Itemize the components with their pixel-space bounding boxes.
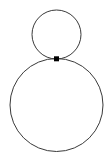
tangent-circles-diagram bbox=[0, 0, 109, 160]
tangent-point bbox=[54, 56, 59, 61]
diagram-background bbox=[0, 0, 109, 160]
figure-canvas bbox=[0, 0, 109, 160]
